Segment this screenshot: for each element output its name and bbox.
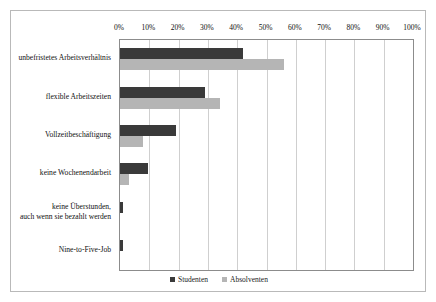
bar-absolventen [120,59,284,70]
category-label: keine Überstunden, auch wenn sie bezahlt… [20,202,111,221]
x-tick-label: 0% [114,21,124,35]
plot-area [119,39,414,271]
x-tick-label: 70% [317,21,331,35]
bar-row [120,48,413,70]
bar-row [120,87,413,109]
legend-item: Studenten [170,275,208,284]
category-axis-labels: unbefristetes Arbeitsverhältnisflexible … [11,39,115,269]
x-tick-label: 90% [376,21,390,35]
legend-item: Absolventen [222,275,268,284]
bar-rows [120,40,413,270]
bar-absolventen [120,174,129,185]
bar-row [120,125,413,147]
category-label: unbefristetes Arbeitsverhältnis [18,53,111,63]
bar-studenten [120,202,123,213]
bar-studenten [120,87,205,98]
bar-studenten [120,163,148,174]
category-label: Vollzeitbeschäftigung [45,130,111,140]
bar-row [120,240,413,262]
x-tick-label: 10% [141,21,155,35]
category-label: flexible Arbeitszeiten [46,92,111,102]
chart-figure: 0%10%20%30%40%50%60%70%80%90%100% unbefr… [10,10,426,292]
category-label: Nine-to-Five-Job [59,245,111,255]
legend-label: Studenten [178,275,208,284]
x-tick-label: 20% [171,21,185,35]
bar-studenten [120,240,123,251]
x-tick-label: 50% [259,21,273,35]
bar-absolventen [120,136,143,147]
chart-legend: StudentenAbsolventen [11,275,427,284]
x-tick-label: 80% [347,21,361,35]
bar-studenten [120,48,243,59]
bar-studenten [120,125,176,136]
x-tick-label: 100% [403,21,421,35]
legend-swatch-icon [222,277,227,282]
x-tick-label: 40% [229,21,243,35]
category-label: keine Wochenendarbeit [40,168,111,178]
bar-absolventen [120,98,220,109]
legend-swatch-icon [170,277,175,282]
legend-label: Absolventen [230,275,268,284]
x-axis-tick-labels: 0%10%20%30%40%50%60%70%80%90%100% [11,21,427,35]
x-tick-label: 30% [200,21,214,35]
bar-row [120,202,413,224]
bar-row [120,163,413,185]
x-tick-label: 60% [288,21,302,35]
